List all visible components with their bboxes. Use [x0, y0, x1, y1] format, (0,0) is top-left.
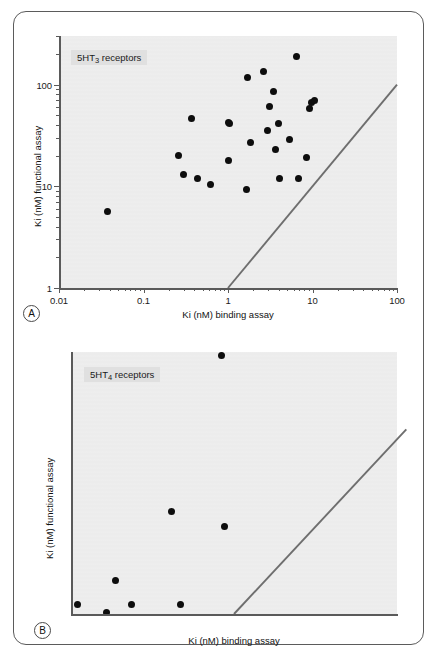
x-tick-label: 1 [225, 295, 230, 306]
y-tick-major [54, 186, 59, 187]
panel-legend-b-subscript: 4 [108, 373, 112, 382]
plot-area-b [71, 352, 397, 614]
x-tick-label: 10 [307, 295, 317, 306]
x-tick-minor [118, 288, 119, 291]
data-point [306, 105, 313, 112]
x-axis-line-b [71, 614, 398, 616]
data-point [272, 146, 279, 153]
y-axis-line-b [71, 352, 73, 615]
x-tick-label: 100 [389, 295, 405, 306]
x-tick-minor [393, 288, 394, 291]
x-tick-minor [209, 288, 210, 291]
data-point [194, 175, 201, 182]
panel-tag-b: B [34, 622, 51, 639]
y-tick-major [54, 288, 59, 289]
x-tick-minor [363, 288, 364, 291]
y-tick-minor [56, 100, 59, 101]
x-tick-minor [353, 288, 354, 291]
x-tick-minor [253, 288, 254, 291]
y-tick-minor [56, 36, 59, 37]
panel-legend-a-prefix: 5HT [77, 52, 95, 63]
x-axis-title-a: Ki (nM) binding assay [182, 309, 273, 320]
x-tick-major [59, 288, 60, 293]
data-point [128, 601, 135, 608]
panel-legend-a: 5HT3 receptors [71, 50, 147, 65]
y-tick-minor [56, 191, 59, 192]
y-tick-minor [56, 227, 59, 228]
y-tick-minor [56, 239, 59, 240]
y-tick-minor [56, 202, 59, 203]
x-tick-minor [110, 288, 111, 291]
x-tick-label: 0.01 [50, 295, 68, 306]
x-tick-minor [294, 288, 295, 291]
y-tick-minor [56, 209, 59, 210]
x-tick-label: 0.1 [137, 295, 150, 306]
panel-tag-a: A [23, 305, 40, 322]
x-tick-minor [135, 288, 136, 291]
data-point [244, 74, 251, 81]
x-tick-major [228, 288, 229, 293]
data-point [74, 601, 81, 608]
x-tick-minor [224, 288, 225, 291]
x-tick-minor [389, 288, 390, 291]
panel-b: 0.1110100100010100100010000 5HT4 recepto… [14, 322, 425, 646]
identity-line-b [71, 352, 397, 614]
x-tick-minor [372, 288, 373, 291]
x-tick-minor [299, 288, 300, 291]
y-axis-line-a [59, 36, 61, 289]
y-tick-minor [56, 257, 59, 258]
x-tick-major [313, 288, 314, 293]
y-axis-title-a: Ki (nM) functional assay [32, 126, 43, 227]
panel-legend-b: 5HT4 receptors [84, 367, 160, 382]
x-tick-minor [140, 288, 141, 291]
data-point [168, 508, 175, 515]
y-tick-minor [56, 125, 59, 126]
plot-area-a [59, 36, 397, 288]
x-tick-minor [169, 288, 170, 291]
x-tick-minor [279, 288, 280, 291]
panel-legend-a-subscript: 3 [95, 56, 99, 65]
x-tick-minor [304, 288, 305, 291]
x-tick-minor [84, 288, 85, 291]
data-point [264, 127, 271, 134]
y-tick-label: 100 [21, 79, 52, 90]
x-tick-minor [384, 288, 385, 291]
figure-frame: 0.010.1110100110100 5HT3 receptors Ki (n… [13, 11, 424, 645]
data-point [293, 53, 300, 60]
x-tick-minor [378, 288, 379, 291]
x-tick-minor [125, 288, 126, 291]
x-tick-minor [203, 288, 204, 291]
y-tick-minor [56, 115, 59, 116]
data-point [221, 523, 228, 530]
y-tick-minor [56, 89, 59, 90]
data-point [295, 175, 302, 182]
x-tick-minor [184, 288, 185, 291]
y-tick-minor [56, 217, 59, 218]
y-tick-minor [56, 156, 59, 157]
data-point [225, 157, 232, 164]
y-tick-minor [56, 54, 59, 55]
y-tick-minor [56, 107, 59, 108]
x-tick-minor [99, 288, 100, 291]
y-tick-major [54, 85, 59, 86]
x-tick-minor [130, 288, 131, 291]
x-axis-title-b: Ki (nM) binding assay [188, 635, 279, 646]
panel-legend-b-prefix: 5HT [90, 369, 108, 380]
y-tick-minor [56, 94, 59, 95]
x-tick-minor [338, 288, 339, 291]
y-axis-title-b: Ki (nM) functional assay [44, 458, 55, 559]
data-point [266, 103, 273, 110]
x-tick-minor [215, 288, 216, 291]
y-tick-minor [56, 196, 59, 197]
x-tick-minor [194, 288, 195, 291]
data-point [177, 601, 184, 608]
y-tick-minor [56, 138, 59, 139]
panel-legend-a-suffix: receptors [99, 52, 141, 63]
x-tick-minor [309, 288, 310, 291]
data-point [247, 139, 254, 146]
y-tick-label: 1 [21, 283, 52, 294]
x-tick-minor [220, 288, 221, 291]
data-point [104, 208, 111, 215]
x-tick-major [397, 288, 398, 293]
x-tick-major [144, 288, 145, 293]
